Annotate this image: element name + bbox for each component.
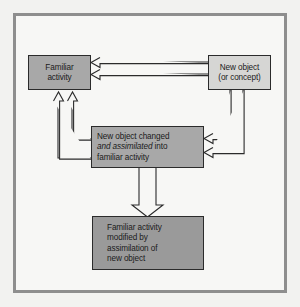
node-new-object-changed-assimilated[interactable]: New object changed and assimilated into … [91,126,204,168]
node-assimilated-line3: familiar activity [97,153,203,163]
node-new-object-line2: (or concept) [209,73,270,83]
node-new-object-line1: New object [209,63,270,73]
node-new-object[interactable]: New object (or concept) [208,55,271,90]
node-assimilated-line2-rest: into [152,142,167,151]
node-familiar-activity[interactable]: Familiar activity [28,55,91,90]
node-assimilated-line2-italic: and assimilated [97,142,152,151]
node-modified-line3: assimilation of [107,244,203,254]
node-familiar-activity-line2: activity [29,73,90,83]
connector-assimilated-to-modified [132,168,163,217]
node-assimilated-line2: and assimilated into [97,142,203,152]
diagram-figure: Familiar activity New object (or concept… [0,0,300,307]
node-modified-line4: new object [107,254,203,264]
node-modified-line1: Familiar activity [107,223,203,233]
connector-new-object-to-familiar-activity-upper [91,58,208,68]
connector-new-object-to-familiar-activity-lower [91,70,208,80]
node-familiar-activity-modified[interactable]: Familiar activity modified by assimilati… [92,216,204,270]
node-familiar-activity-line1: Familiar [29,63,90,73]
node-assimilated-line1: New object changed [97,132,203,142]
node-modified-line2: modified by [107,233,203,243]
